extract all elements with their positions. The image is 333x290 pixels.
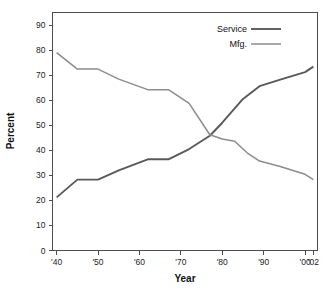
x-tick-label: '50 bbox=[93, 257, 104, 267]
y-tick-label: 30 bbox=[36, 170, 46, 180]
y-tick-label: 50 bbox=[36, 120, 46, 130]
y-tick-label: 60 bbox=[36, 95, 46, 105]
y-tick-label: 0 bbox=[41, 246, 46, 256]
y-axis-ticks: 0102030405060708090 bbox=[36, 20, 52, 255]
y-tick-label: 10 bbox=[36, 220, 46, 230]
plot-area-border bbox=[53, 13, 318, 251]
x-axis-title: Year bbox=[174, 273, 195, 284]
x-tick-label: '70 bbox=[175, 257, 186, 267]
x-tick-label: '40 bbox=[51, 257, 62, 267]
y-tick-label: 70 bbox=[36, 70, 46, 80]
y-tick-label: 90 bbox=[36, 20, 46, 30]
x-tick-label: '02 bbox=[308, 257, 319, 267]
y-tick-label: 80 bbox=[36, 45, 46, 55]
y-tick-label: 20 bbox=[36, 195, 46, 205]
series-line-mfg bbox=[57, 53, 314, 180]
plot-frame bbox=[53, 13, 318, 251]
legend-label-service: Service bbox=[217, 24, 247, 34]
x-tick-label: '90 bbox=[258, 257, 269, 267]
data-series-group bbox=[57, 53, 314, 198]
line-chart: 0102030405060708090 '40'50'60'70'80'90'0… bbox=[0, 0, 333, 290]
x-tick-label: '80 bbox=[217, 257, 228, 267]
x-axis-ticks: '40'50'60'70'80'90'00'02 bbox=[51, 251, 319, 267]
legend-label-mfg: Mfg. bbox=[229, 39, 247, 49]
x-tick-label: '60 bbox=[134, 257, 145, 267]
y-axis-title: Percent bbox=[5, 112, 16, 149]
series-line-service bbox=[57, 67, 314, 198]
chart-container: 0102030405060708090 '40'50'60'70'80'90'0… bbox=[0, 0, 333, 290]
y-tick-label: 40 bbox=[36, 145, 46, 155]
chart-legend: ServiceMfg. bbox=[217, 24, 281, 49]
